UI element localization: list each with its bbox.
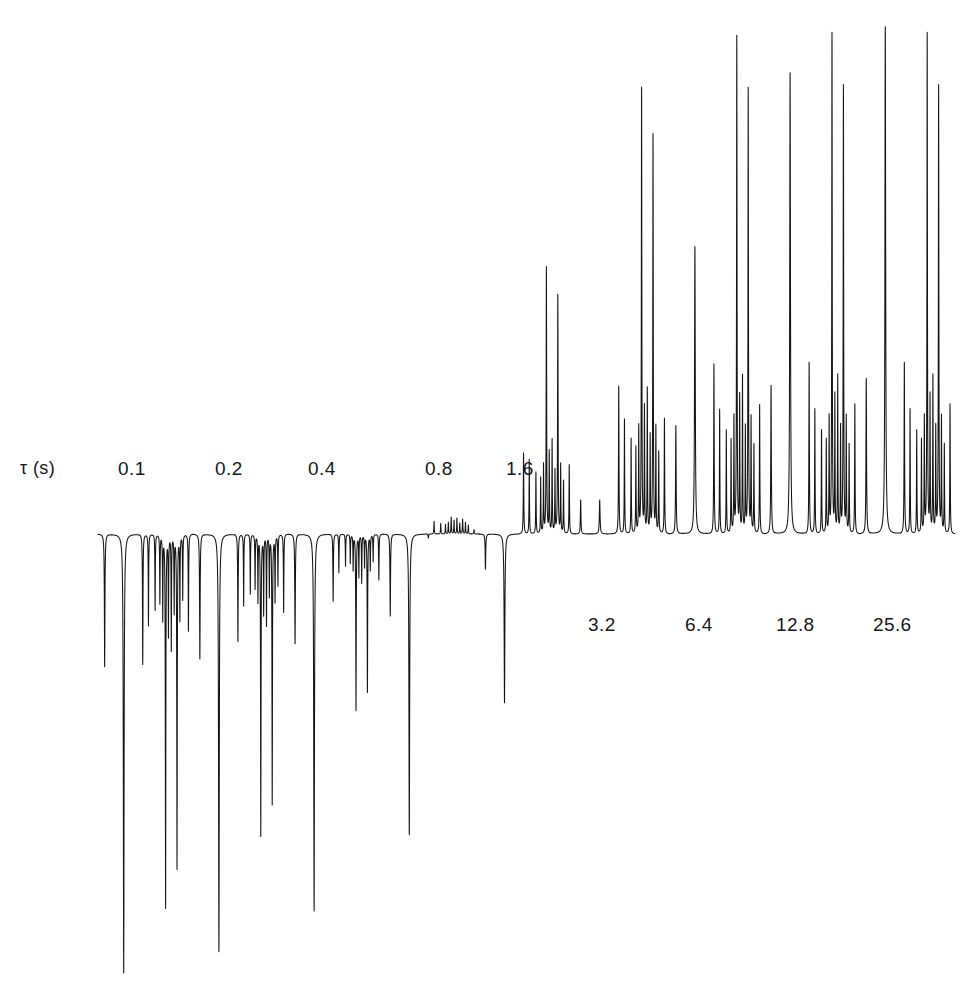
spectrum-trace-tau-0-2: [193, 534, 288, 952]
stacked-spectra-plot: [0, 0, 963, 1008]
spectrum-trace-tau-0-8: [384, 517, 479, 835]
nmr-inversion-recovery-figure: τ (s) 0.10.20.40.81.6 3.26.412.825.6: [0, 0, 963, 1008]
spectrum-trace-tau-0-4: [288, 534, 383, 911]
spectrum-trace-tau-1-6: [479, 266, 574, 702]
spectrum-trace-tau-25-6: [860, 27, 955, 534]
spectrum-trace-tau-0-1: [98, 534, 193, 973]
spectrum-trace-tau-12-8: [764, 32, 859, 533]
spectrum-trace-tau-3-2: [574, 87, 669, 534]
spectrum-trace-tau-6-4: [669, 35, 764, 533]
